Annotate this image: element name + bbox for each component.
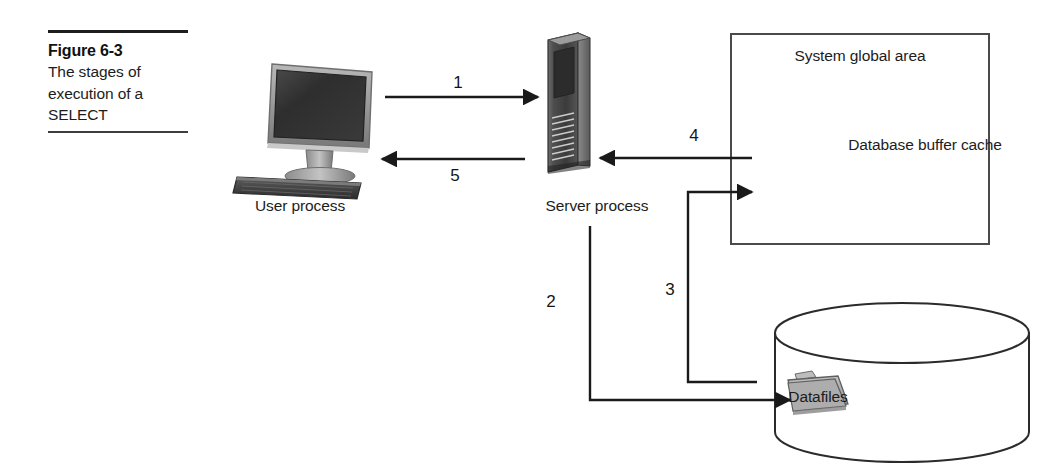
step-number-2: 2 xyxy=(546,292,555,312)
user-process-label: User process xyxy=(255,197,345,215)
desktop-monitor-icon xyxy=(233,64,372,199)
system-global-area-label: System global area xyxy=(795,47,926,65)
step-number-5: 5 xyxy=(450,166,459,186)
datafiles-label: Datafiles xyxy=(788,388,847,406)
server-process-label: Server process xyxy=(546,197,649,215)
figure-canvas: Figure 6-3 The stages of execution of a … xyxy=(0,0,1044,472)
database-buffer-cache-label: Database buffer cache xyxy=(848,132,1002,157)
step-number-3: 3 xyxy=(665,280,674,300)
server-tower-icon xyxy=(548,33,590,174)
step-number-1: 1 xyxy=(453,73,462,93)
step-number-4: 4 xyxy=(689,126,698,146)
